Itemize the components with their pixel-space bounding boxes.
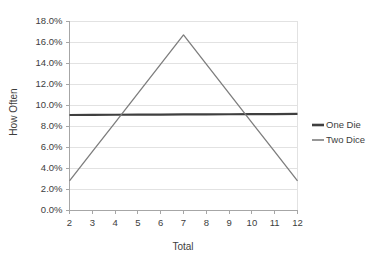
y-axis-tick-label: 10.0% — [36, 99, 63, 110]
x-axis-tick-label: 5 — [135, 217, 140, 228]
x-axis-tick-label: 12 — [292, 217, 303, 228]
y-axis-tick-label: 8.0% — [41, 120, 63, 131]
x-axis-tick-label: 9 — [226, 217, 231, 228]
x-axis-tick-label: 10 — [247, 217, 258, 228]
y-axis-tick-label: 18.0% — [36, 15, 63, 26]
series-line-one-die — [70, 114, 298, 115]
legend-label-two-dice: Two Dice — [326, 134, 365, 145]
x-axis-tick-label: 11 — [270, 217, 280, 228]
dice-probability-line-chart: 0.0%2.0%4.0%6.0%8.0%10.0%12.0%14.0%16.0%… — [0, 0, 383, 265]
x-axis-tick-label: 2 — [67, 217, 72, 228]
y-axis-tick-label: 6.0% — [41, 141, 63, 152]
y-axis-tick-label: 0.0% — [41, 204, 63, 215]
x-axis-tick-label: 6 — [158, 217, 163, 228]
y-axis-tick-label: 14.0% — [36, 57, 63, 68]
y-axis-tick-label: 2.0% — [41, 183, 63, 194]
legend-label-one-die: One Die — [326, 119, 361, 130]
x-axis-tick-label: 3 — [90, 217, 95, 228]
y-axis-tick-label: 16.0% — [36, 36, 63, 47]
x-axis-title: Total — [172, 241, 193, 252]
x-axis-tick-label: 8 — [204, 217, 209, 228]
y-axis-tick-label: 4.0% — [41, 162, 63, 173]
chart-container: 0.0%2.0%4.0%6.0%8.0%10.0%12.0%14.0%16.0%… — [0, 0, 383, 265]
x-axis-tick-label: 4 — [112, 217, 117, 228]
y-axis-tick-label: 12.0% — [36, 78, 63, 89]
x-axis-tick-label: 7 — [181, 217, 186, 228]
y-axis-title: How Often — [8, 88, 19, 135]
